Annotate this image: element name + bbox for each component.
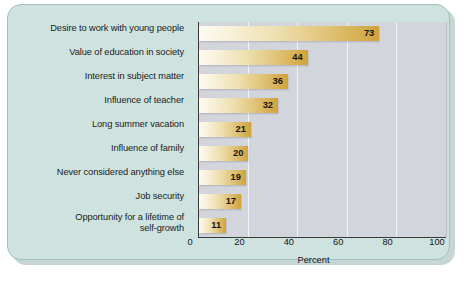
category-label: Long summer vacation <box>14 119 184 130</box>
x-tick-label-0: 0 <box>170 237 210 247</box>
x-tick-label-20: 20 <box>219 237 259 247</box>
x-tick-label-100: 100 <box>417 237 457 247</box>
bar-value-label: 73 <box>343 26 374 41</box>
bar-value-label: 21 <box>215 122 246 137</box>
bar-value-label: 44 <box>272 50 303 65</box>
gridline-60 <box>347 22 348 237</box>
category-label: Opportunity for a lifetime ofself-growth <box>14 212 184 234</box>
bar-value-label: 17 <box>205 194 236 209</box>
bar-value-label: 32 <box>242 98 273 113</box>
category-label: Job security <box>14 191 184 202</box>
x-axis-tick-labels: 020406080100 <box>0 237 473 251</box>
gridline-80 <box>396 22 397 237</box>
category-label-line1: Opportunity for a lifetime of <box>14 212 184 223</box>
plot-right-border <box>446 22 447 237</box>
bar-value-label: 19 <box>210 170 241 185</box>
category-label-line2: self-growth <box>14 223 184 234</box>
bar-value-label: 11 <box>190 218 221 233</box>
category-label: Influence of family <box>14 143 184 154</box>
plot-area: 734436322120191711 <box>198 22 446 238</box>
category-label: Influence of teacher <box>14 95 184 106</box>
category-label: Value of education in society <box>14 47 184 58</box>
x-tick-label-40: 40 <box>269 237 309 247</box>
x-axis-title: Percent <box>190 255 437 265</box>
bar-value-label: 20 <box>212 146 243 161</box>
category-label: Desire to work with young people <box>14 23 184 34</box>
category-label: Never considered anything else <box>14 167 184 178</box>
x-tick-label-80: 80 <box>368 237 408 247</box>
category-label: Interest in subject matter <box>14 71 184 82</box>
category-axis-labels: Desire to work with young peopleValue of… <box>14 13 184 235</box>
bar-value-label: 36 <box>252 74 283 89</box>
x-tick-label-60: 60 <box>318 237 358 247</box>
